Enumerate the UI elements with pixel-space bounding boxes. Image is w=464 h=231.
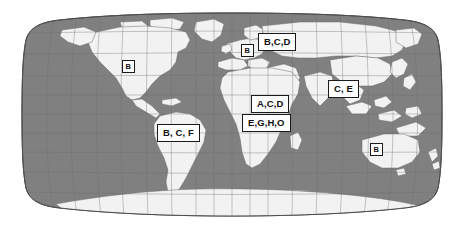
map-label-south-america[interactable]: B, C, F	[157, 124, 200, 142]
world-map-figure: B B B,C,D C, E A,C,D E,G,H,O B, C, F B	[0, 0, 464, 231]
world-map-graphic	[0, 0, 464, 231]
map-label-sub-saharan-africa[interactable]: E,G,H,O	[242, 114, 291, 132]
map-label-south-asia[interactable]: C, E	[328, 80, 359, 98]
map-label-northern-eurasia[interactable]: B,C,D	[258, 33, 296, 51]
map-label-north-america[interactable]: B	[122, 60, 135, 73]
map-label-australia[interactable]: B	[370, 143, 383, 156]
map-label-north-africa[interactable]: A,C,D	[251, 95, 289, 113]
map-label-europe[interactable]: B	[241, 44, 254, 57]
